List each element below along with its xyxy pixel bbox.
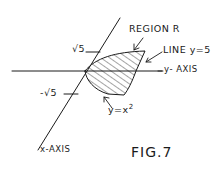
region-r-label: REGION R <box>129 24 180 34</box>
line-y5-label: LINE y=5 <box>163 45 211 55</box>
y-axis-label: y- AXIS <box>164 65 198 74</box>
figure-drawing <box>0 0 219 175</box>
figure-caption: FIG.7 <box>131 145 172 159</box>
line-arrow <box>146 52 162 62</box>
x-axis-label: x-AXIS <box>40 145 70 154</box>
tick-sqrt5-label: √5 <box>72 44 85 54</box>
curve-label-base: y=x <box>108 104 129 115</box>
tick-neg-sqrt5-label: -√5 <box>40 88 57 98</box>
curve-label: y=x2 <box>108 104 134 115</box>
region-r <box>85 51 145 95</box>
curve-label-exponent: 2 <box>129 103 134 111</box>
